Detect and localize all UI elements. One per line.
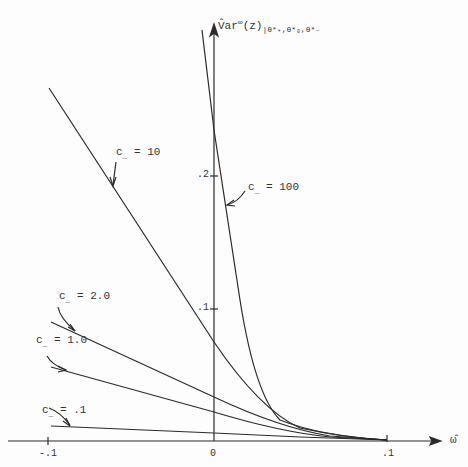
- series-c-10: [49, 88, 387, 440]
- label-c-10: c_ = 10: [116, 146, 160, 158]
- arrowhead-c-0.1-icon: [63, 418, 70, 426]
- y-tick-label-1: .1: [197, 302, 209, 313]
- series-c-100: [202, 30, 387, 440]
- label-c-0.1: c_ = .1: [42, 404, 86, 416]
- chart-figure: -.1 0 .1 .1 .2 V̂ar∞(z)|θ*₊,θ*₀,θ*₋ ω̂ c…: [0, 0, 468, 467]
- y-axis-title-sup: ∞: [238, 18, 243, 27]
- x-tick-label-pos: .1: [382, 448, 394, 459]
- y-axis-title-main: V̂ar: [218, 20, 238, 32]
- label-c-1.0: c_ = 1.0: [36, 334, 87, 346]
- series-c-1.0: [51, 367, 387, 440]
- x-tick-label-zero: 0: [210, 448, 216, 459]
- y-tick-label-2: .2: [197, 169, 209, 180]
- label-c-2.0: c_ = 2.0: [59, 290, 110, 302]
- x-axis-title: ω̂: [450, 434, 457, 446]
- chart-plot: [0, 0, 468, 467]
- y-axis-title-cond: |θ*₊,θ*₀,θ*₋: [262, 25, 320, 34]
- y-axis-title-rest: (z): [243, 20, 263, 32]
- x-axis-arrow-icon: [430, 437, 441, 445]
- x-tick-label-neg: -.1: [39, 448, 57, 459]
- label-c-100: c_ = 100: [248, 181, 299, 193]
- y-axis-title: V̂ar∞(z)|θ*₊,θ*₀,θ*₋: [218, 20, 320, 32]
